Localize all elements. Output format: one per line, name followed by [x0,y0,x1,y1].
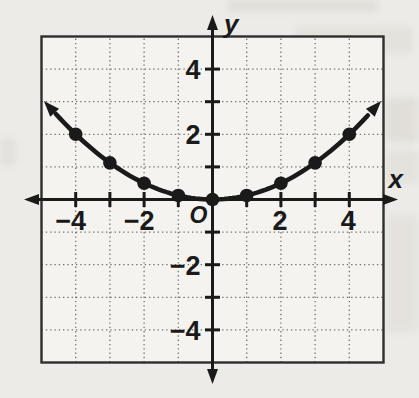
data-point [308,156,322,170]
x-tick-label: 2 [272,206,287,236]
x-axis-label: x [387,164,405,194]
data-point [103,156,117,170]
x-tick-label: −2 [124,206,155,236]
origin-label: O [190,202,208,228]
y-tick-label: 2 [185,120,200,150]
data-point [274,176,288,190]
x-axis-arrow-left [24,194,39,205]
x-tick-label: 4 [341,206,356,236]
y-tick-label: −4 [170,316,201,346]
y-axis-label: y [222,9,240,39]
y-axis-arrow-up [207,15,218,30]
page-background: −4−22442−2−4xyO [0,0,419,398]
data-point [137,176,151,190]
data-point [206,193,220,207]
data-point [343,128,357,142]
coordinate-plane-graph: −4−22442−2−4xyO [0,0,419,398]
y-axis-arrow-down [207,369,218,384]
x-tick-label: −4 [55,206,86,236]
x-axis-arrow-right [383,194,398,205]
textbook-page: { "page": { "paper_color": "#edebe7", "p… [0,0,419,398]
y-tick-label: 4 [185,55,200,85]
y-tick-label: −2 [170,251,201,281]
data-point [240,189,254,203]
data-point [69,128,83,142]
data-point [172,189,186,203]
